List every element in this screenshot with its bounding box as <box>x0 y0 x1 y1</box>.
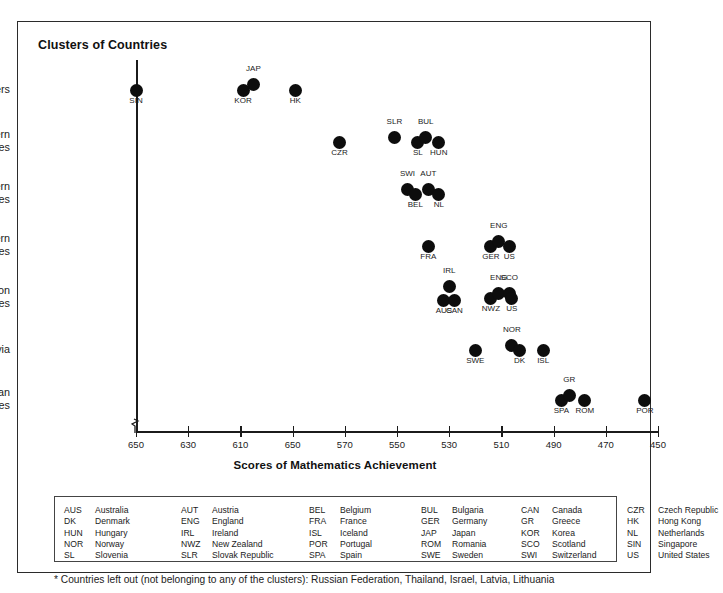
x-axis-tick <box>397 426 398 437</box>
data-point <box>448 294 461 307</box>
legend-row: KORKorea <box>521 528 627 539</box>
x-axis-tick-label: 650 <box>273 439 313 450</box>
legend-country-name: Norway <box>95 539 124 549</box>
legend-column: AUSAustraliaDKDenmarkHUNHungaryNORNorway… <box>64 505 181 561</box>
legend-country-name: Denmark <box>95 516 130 526</box>
legend-country-name: France <box>340 516 367 526</box>
legend-grid: AUSAustraliaDKDenmarkHUNHungaryNORNorway… <box>64 505 723 561</box>
data-point <box>443 280 456 293</box>
data-point <box>130 84 143 97</box>
legend-country-name: Switzerland <box>552 550 596 560</box>
legend-country-name: Germany <box>452 516 487 526</box>
legend-country-code: NWZ <box>181 539 212 549</box>
legend-country-name: Ireland <box>212 528 238 538</box>
legend-country-code: DK <box>64 516 95 526</box>
y-axis-line <box>136 60 138 432</box>
legend-country-code: US <box>627 550 658 560</box>
legend-country-code: SIN <box>627 539 658 549</box>
legend-country-name: Austria <box>212 505 239 515</box>
legend-column: CANCanadaGRGreeceKORKoreaSCOScotlandSWIS… <box>521 505 627 561</box>
legend-country-code: NL <box>627 528 658 538</box>
data-point <box>388 131 401 144</box>
legend-country-code: SWI <box>521 550 552 560</box>
footnote: * Countries left out (not belonging to a… <box>54 574 554 585</box>
legend-country-code: GR <box>521 516 552 526</box>
legend-country-name: Belgium <box>340 505 371 515</box>
legend-country-name: Scotland <box>552 539 585 549</box>
legend-row: SWESweden <box>421 550 521 561</box>
data-point <box>289 84 302 97</box>
x-axis-tick-label: 650 <box>116 439 156 450</box>
legend-country-code: NOR <box>64 539 95 549</box>
legend-country-code: SLR <box>181 550 212 560</box>
x-axis-title: Scores of Mathematics Achievement <box>18 459 652 471</box>
data-point <box>422 240 435 253</box>
legend-country-code: AUS <box>64 505 95 515</box>
legend-country-name: Slovenia <box>95 550 128 560</box>
legend-country-name: Netherlands <box>658 528 704 538</box>
legend-country-name: Czech Republic <box>658 505 718 515</box>
legend-country-name: Slovak Republic <box>212 550 274 560</box>
legend-column: CZRCzech RepublicHKHong KongNLNetherland… <box>627 505 723 561</box>
cluster-label: Small Eastern European Countries <box>0 128 10 154</box>
data-point <box>247 78 260 91</box>
legend-country-code: SCO <box>521 539 552 549</box>
legend-country-name: England <box>212 516 244 526</box>
scatter-plot: Asian Pacific TigersSmall Eastern Europe… <box>18 22 652 482</box>
x-axis-tick-label: 550 <box>377 439 417 450</box>
data-point <box>432 136 445 149</box>
legend-row: NLNetherlands <box>627 528 723 539</box>
x-axis-tick <box>606 426 607 437</box>
legend-country-code: BUL <box>421 505 452 515</box>
data-point-label: HUN <box>417 148 461 157</box>
country-code-legend: AUSAustraliaDKDenmarkHUNHungaryNORNorway… <box>54 496 617 562</box>
legend-country-name: Korea <box>552 528 575 538</box>
legend-row: BULBulgaria <box>421 505 521 516</box>
legend-country-code: KOR <box>521 528 552 538</box>
data-point-label: KOR <box>221 96 265 105</box>
legend-row: HKHong Kong <box>627 516 723 527</box>
data-point <box>505 292 518 305</box>
legend-row: AUSAustralia <box>64 505 181 516</box>
legend-country-code: ENG <box>181 516 212 526</box>
legend-country-name: Bulgaria <box>452 505 484 515</box>
data-point-label: US <box>487 252 531 261</box>
data-point-label: GR <box>547 375 591 384</box>
legend-row: CZRCzech Republic <box>627 505 723 516</box>
legend-country-code: ROM <box>421 539 452 549</box>
legend-country-name: New Zealand <box>212 539 263 549</box>
legend-row: SCOScotland <box>521 539 627 550</box>
cluster-label: Asian Pacific Tigers <box>0 83 10 96</box>
legend-country-name: Australia <box>95 505 128 515</box>
x-axis-tick <box>345 426 346 437</box>
legend-row: SINSingapore <box>627 539 723 550</box>
legend-country-name: Iceland <box>340 528 368 538</box>
x-axis-tick-label: 510 <box>481 439 521 450</box>
legend-country-code: CAN <box>521 505 552 515</box>
x-axis-tick <box>658 426 659 437</box>
legend-row: ROMRomania <box>421 539 521 550</box>
x-axis-tick <box>554 426 555 437</box>
legend-row: IRLIreland <box>181 528 309 539</box>
legend-country-code: BEL <box>309 505 340 515</box>
legend-country-name: Portugal <box>340 539 372 549</box>
legend-row: SWISwitzerland <box>521 550 627 561</box>
data-point-label: NOR <box>490 325 534 334</box>
legend-row: SLSlovenia <box>64 550 181 561</box>
data-point-label: SIN <box>114 96 158 105</box>
data-point-label: FRA <box>406 252 450 261</box>
legend-country-name: Hungary <box>95 528 127 538</box>
legend-country-name: Sweden <box>452 550 483 560</box>
x-axis-tick <box>240 426 241 437</box>
legend-country-code: FRA <box>309 516 340 526</box>
legend-country-code: HUN <box>64 528 95 538</box>
x-axis-tick-label: 570 <box>325 439 365 450</box>
data-point <box>469 344 482 357</box>
cluster-label: Large Western Economies <box>0 232 10 258</box>
cluster-label: Small Western European Countries <box>0 180 10 206</box>
legend-row: AUTAustria <box>181 505 309 516</box>
legend-row: BELBelgium <box>309 505 421 516</box>
data-point-label: HK <box>273 96 317 105</box>
data-point <box>432 188 445 201</box>
legend-country-name: Singapore <box>658 539 697 549</box>
